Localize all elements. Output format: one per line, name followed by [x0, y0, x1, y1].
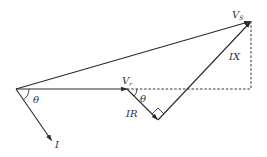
vs-vector [16, 22, 250, 90]
ix-label: IX [228, 51, 241, 62]
current-label: I [54, 139, 60, 150]
ir-label: IR [125, 108, 138, 119]
phasor-diagram: VS Vr IX IR I θ θ [0, 0, 267, 157]
right-angle-marker [152, 108, 164, 120]
theta-label-origin: θ [33, 94, 39, 105]
vr-label: Vr [122, 75, 133, 87]
theta-label-vr: θ [140, 93, 146, 104]
theta-arc-vr [134, 89, 137, 96]
theta-arc-origin [23, 89, 29, 100]
vs-label: VS [232, 9, 243, 21]
ix-vector [158, 22, 251, 120]
